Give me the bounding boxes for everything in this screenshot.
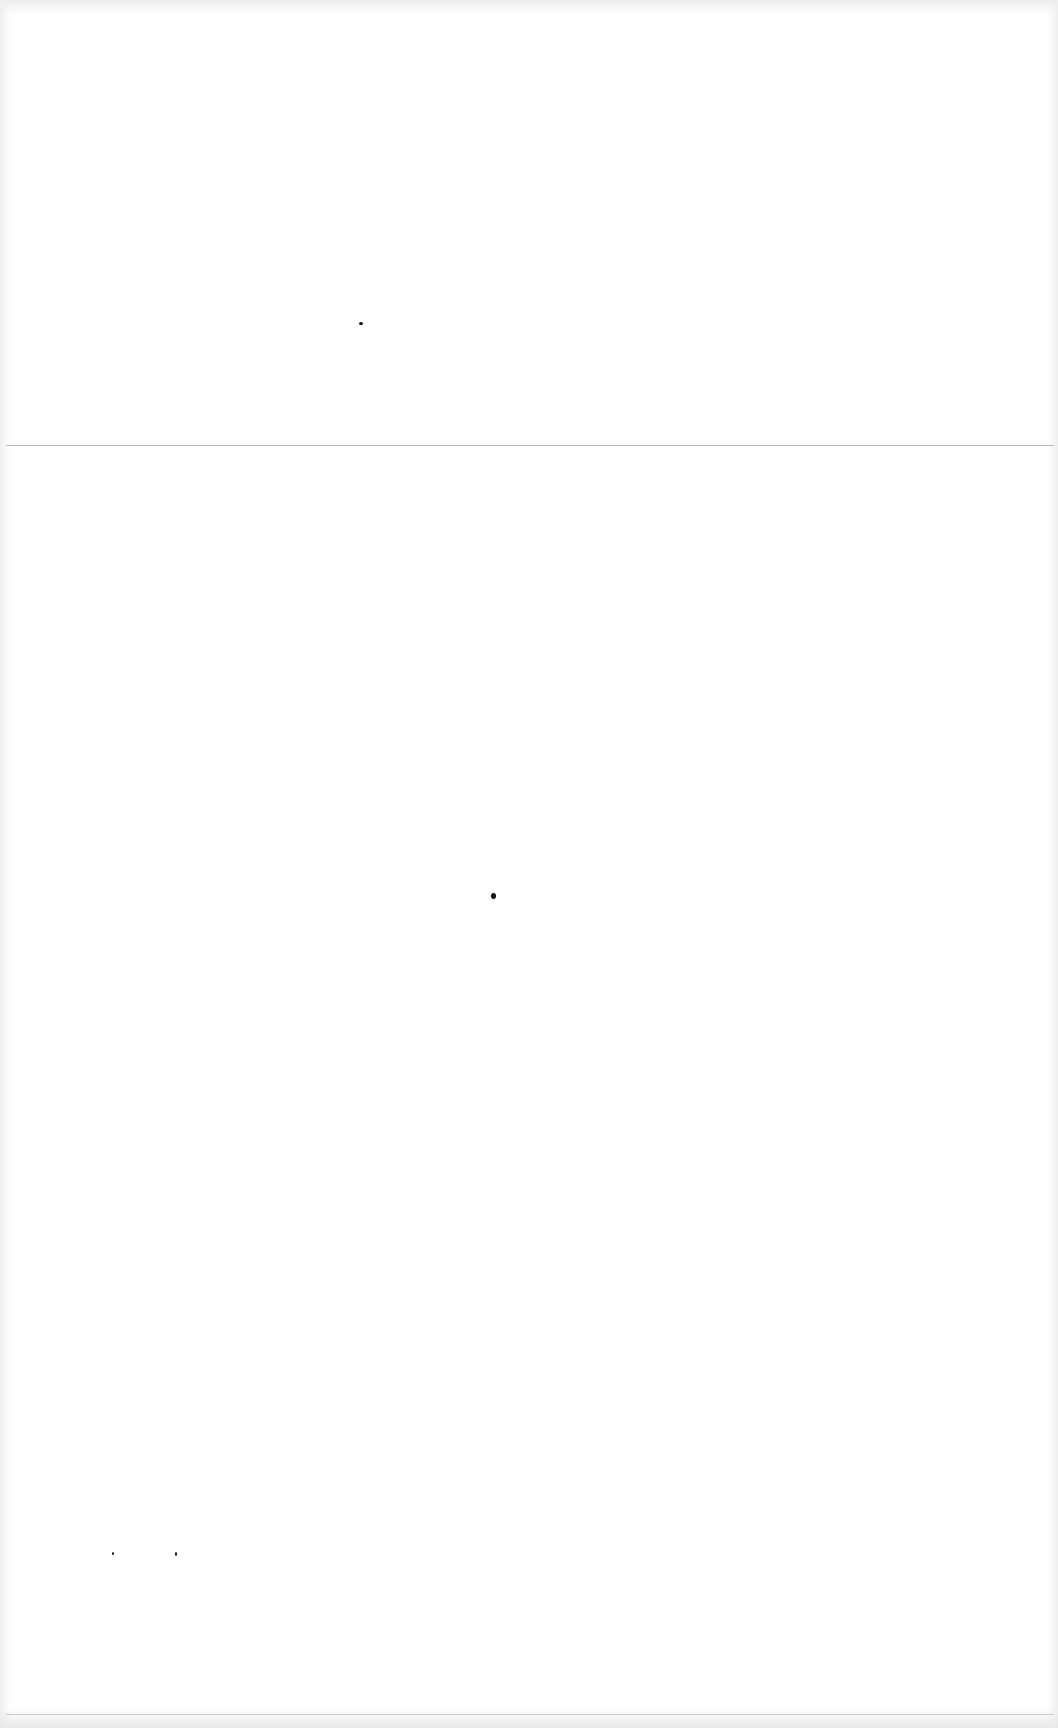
- dust-speck: [112, 1552, 114, 1555]
- scan-edge-bottom: [0, 1708, 1058, 1728]
- bottom-edge-line: [6, 1714, 1054, 1715]
- dust-speck: [359, 322, 363, 325]
- dust-speck: [175, 1552, 177, 1556]
- scan-edge-right: [1048, 0, 1058, 1728]
- blank-scanned-page: [0, 0, 1058, 1728]
- dust-speck: [491, 893, 496, 899]
- scan-edge-top: [0, 0, 1058, 14]
- scan-edge-left: [0, 0, 10, 1728]
- fold-line: [6, 445, 1054, 446]
